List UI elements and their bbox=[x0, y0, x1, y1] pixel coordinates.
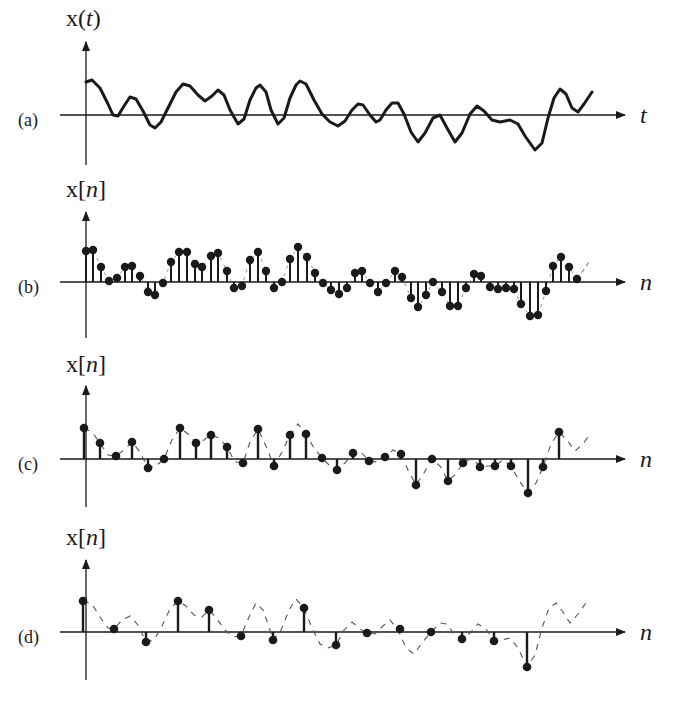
sample-dot bbox=[254, 248, 262, 256]
sample-dot bbox=[142, 638, 151, 647]
sample-dot bbox=[397, 450, 406, 459]
sample-stem bbox=[446, 282, 454, 310]
sample-dot bbox=[97, 263, 105, 271]
sample-stem bbox=[113, 274, 121, 282]
sample-stem bbox=[429, 278, 437, 286]
panel-c-medium-samples: (c)x[n]n bbox=[18, 351, 652, 507]
sample-dot bbox=[396, 625, 405, 634]
sample-dot bbox=[365, 457, 374, 466]
sample-dot bbox=[358, 267, 366, 275]
sample-stem bbox=[517, 282, 525, 308]
sample-dot bbox=[151, 291, 159, 299]
sample-stem bbox=[414, 282, 422, 311]
sample-stem bbox=[319, 279, 327, 287]
sample-dot bbox=[270, 284, 278, 292]
sample-stem bbox=[207, 431, 216, 459]
y-axis-title: x[n] bbox=[66, 176, 106, 202]
sample-dot bbox=[490, 637, 499, 646]
sample-stem bbox=[128, 438, 137, 459]
sample-stem bbox=[358, 267, 366, 282]
sample-dot bbox=[462, 284, 470, 292]
sample-dot bbox=[230, 284, 238, 292]
sample-stem bbox=[332, 632, 341, 649]
sample-stem bbox=[526, 282, 534, 320]
sample-dot bbox=[223, 443, 232, 452]
sample-dot bbox=[105, 277, 113, 285]
sample-dot bbox=[175, 248, 183, 256]
panel-d-sparse-samples: (d)x[n]n bbox=[18, 524, 652, 680]
sample-stem bbox=[382, 279, 390, 287]
sample-stem bbox=[254, 425, 263, 459]
sample-stem bbox=[490, 632, 499, 645]
sample-stem bbox=[365, 457, 374, 466]
sample-dot bbox=[526, 312, 534, 320]
sample-dot bbox=[335, 290, 343, 298]
sample-stem bbox=[80, 424, 89, 459]
sample-dot bbox=[238, 282, 246, 290]
sample-dot bbox=[278, 278, 286, 286]
sample-stem bbox=[459, 459, 468, 468]
sample-stem bbox=[454, 282, 462, 310]
sample-stem bbox=[89, 246, 97, 282]
sample-stem bbox=[110, 625, 119, 634]
sample-stem bbox=[502, 282, 510, 292]
sample-stem bbox=[278, 278, 286, 286]
sample-stem bbox=[294, 243, 302, 282]
sample-dot bbox=[205, 606, 214, 615]
sample-dot bbox=[300, 604, 309, 613]
sample-dot bbox=[444, 477, 453, 486]
sample-dot bbox=[557, 253, 565, 261]
x-axis-label: n bbox=[640, 269, 652, 295]
sample-dot bbox=[523, 663, 532, 672]
sample-stem bbox=[270, 459, 279, 470]
sample-stem bbox=[542, 282, 550, 295]
sample-dot bbox=[128, 262, 136, 270]
sample-stem bbox=[398, 273, 406, 282]
sample-dot bbox=[542, 287, 550, 295]
sample-stem bbox=[286, 431, 295, 459]
sample-dot bbox=[565, 263, 573, 271]
sample-stem bbox=[335, 282, 343, 298]
sample-dot bbox=[391, 267, 399, 275]
sample-dot bbox=[524, 489, 533, 498]
sample-dot bbox=[302, 430, 311, 439]
sample-dot bbox=[144, 464, 153, 473]
sample-stem bbox=[343, 282, 351, 292]
sample-dot bbox=[89, 246, 97, 254]
sample-stem bbox=[174, 597, 183, 632]
sample-dot bbox=[494, 285, 502, 293]
sample-dot bbox=[363, 629, 372, 638]
sample-dot bbox=[507, 462, 516, 471]
sample-dot bbox=[412, 481, 421, 490]
sample-dot bbox=[269, 636, 278, 645]
sample-stem bbox=[555, 428, 564, 459]
sample-dot bbox=[502, 284, 510, 292]
sample-dot bbox=[428, 455, 437, 464]
sample-stem bbox=[142, 632, 151, 646]
sample-dot bbox=[454, 302, 462, 310]
sample-dot bbox=[476, 463, 485, 472]
sample-stem bbox=[270, 282, 278, 292]
y-axis-title: x[n] bbox=[66, 524, 106, 550]
sample-stem bbox=[198, 263, 206, 282]
sample-stem bbox=[183, 248, 191, 282]
sample-dot bbox=[214, 249, 222, 257]
sample-stem bbox=[476, 459, 485, 471]
sample-dot bbox=[286, 431, 295, 440]
sample-dot bbox=[159, 279, 167, 287]
sample-dot bbox=[491, 462, 500, 471]
sample-dot bbox=[438, 288, 446, 296]
panel-b-dense-samples: (b)x[n]n bbox=[18, 176, 652, 338]
sample-dot bbox=[318, 454, 327, 463]
sample-stem bbox=[239, 459, 248, 468]
y-axis-title: x(t) bbox=[66, 5, 101, 31]
sample-dot bbox=[319, 279, 327, 287]
sample-dot bbox=[427, 628, 436, 637]
sample-stem bbox=[159, 279, 167, 287]
sample-stem bbox=[428, 455, 437, 464]
sample-stem bbox=[565, 263, 573, 282]
sample-stem bbox=[396, 625, 405, 634]
sample-dot bbox=[198, 263, 206, 271]
sample-dot bbox=[510, 285, 518, 293]
sample-stem bbox=[207, 252, 215, 282]
